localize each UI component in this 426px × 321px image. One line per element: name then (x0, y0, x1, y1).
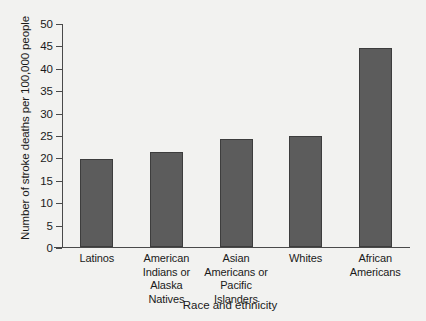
category-label: Whites (271, 252, 341, 266)
bar (289, 136, 322, 247)
y-axis-tick-label: 30 (40, 106, 53, 122)
plot-area: 05101520253035404550 (62, 24, 410, 248)
bar (150, 152, 183, 247)
y-axis-tick-mark (56, 203, 62, 204)
y-axis-tick-mark (56, 226, 62, 227)
y-axis-tick-mark (56, 46, 62, 47)
y-axis-tick-label: 10 (40, 195, 53, 211)
y-axis-tick-mark (56, 91, 62, 92)
y-axis-tick-label: 50 (40, 16, 53, 32)
y-axis-title: Number of stroke deaths per 100,000 peop… (17, 3, 33, 253)
y-axis-tick-label: 45 (40, 38, 53, 54)
y-axis-tick-label: 0 (47, 240, 53, 256)
y-axis-tick-mark (56, 181, 62, 182)
y-axis-tick-mark (56, 114, 62, 115)
y-axis-tick-mark (56, 24, 62, 25)
bar (220, 139, 253, 247)
y-axis-line (62, 24, 63, 248)
bar (359, 48, 392, 247)
stroke-deaths-bar-chart: Number of stroke deaths per 100,000 peop… (0, 0, 426, 321)
y-axis-tick-label: 40 (40, 61, 53, 77)
category-label: Latinos (62, 252, 132, 266)
y-axis-tick-label: 35 (40, 83, 53, 99)
x-axis-title: Race and ethnicity (0, 297, 426, 313)
bar (80, 159, 113, 247)
x-axis-line (54, 247, 410, 248)
y-axis-tick-mark (56, 136, 62, 137)
category-label: African Americans (340, 252, 410, 279)
y-axis-tick-mark (56, 158, 62, 159)
y-axis-tick-label: 25 (40, 128, 53, 144)
y-axis-tick-label: 5 (47, 218, 53, 234)
y-axis-tick-mark (56, 69, 62, 70)
y-axis-tick-mark (56, 248, 62, 249)
y-axis-tick-label: 15 (40, 173, 53, 189)
y-axis-tick-label: 20 (40, 150, 53, 166)
